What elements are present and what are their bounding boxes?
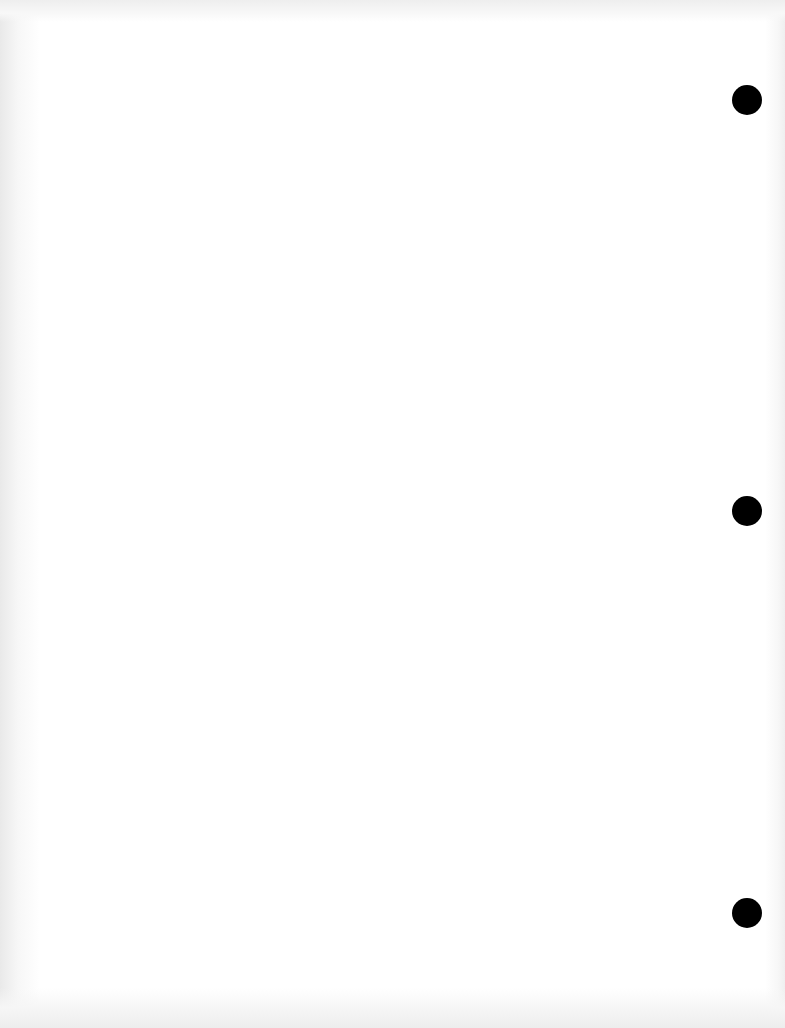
scan-edge-top: [0, 0, 785, 22]
scanned-page: [0, 0, 785, 1028]
punch-hole-top: [732, 85, 762, 115]
punch-hole-bottom: [732, 898, 762, 928]
punch-hole-middle: [732, 496, 762, 526]
scan-edge-bottom: [0, 988, 785, 1028]
